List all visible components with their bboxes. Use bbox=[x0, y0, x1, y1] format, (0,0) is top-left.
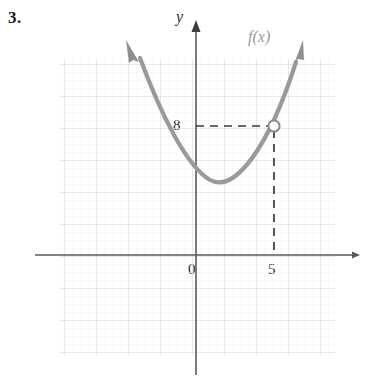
grid-background bbox=[59, 59, 335, 355]
open-point-marker bbox=[268, 120, 279, 131]
graph-figure bbox=[0, 0, 367, 376]
